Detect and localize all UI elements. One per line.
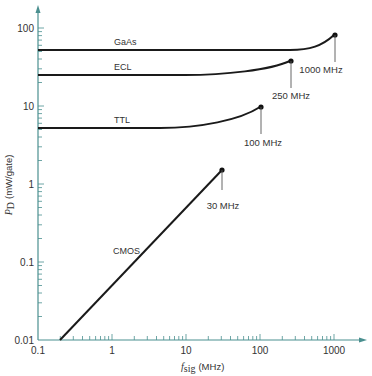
series-label-cmos: CMOS [113, 246, 140, 256]
x-tick-label: 100 [252, 345, 269, 356]
series-label-gaas: GaAs [114, 37, 137, 47]
x-tick-label: 1000 [323, 345, 346, 356]
series-gaas-line [38, 35, 334, 50]
chart-canvas: 0.01 0.1 1 10 100 0.1 1 10 100 1000 fsig… [0, 0, 372, 376]
x-tick-label: 1 [109, 345, 115, 356]
y-ticks [38, 28, 44, 317]
y-tick-labels: 0.01 0.1 1 10 100 [15, 23, 35, 346]
x-axis-title: fsig(MHz) [181, 361, 224, 374]
x-axis-arrow-icon [359, 338, 367, 343]
series-label-ttl: TTL [114, 115, 130, 125]
series-ecl-line [38, 61, 290, 75]
annotation-ecl: 250 MHz [272, 90, 310, 101]
series-cmos-line [60, 170, 222, 340]
endpoint-annotations: 1000 MHz 250 MHz 100 MHz 30 MHz [207, 64, 343, 211]
annotation-gaas: 1000 MHz [299, 64, 343, 75]
x-ticks [60, 334, 334, 340]
y-tick-label: 1 [28, 179, 34, 190]
annotation-ttl: 100 MHz [244, 137, 282, 148]
annotation-cmos: 30 MHz [207, 200, 240, 211]
x-tick-label: 0.1 [31, 345, 45, 356]
y-axis-arrow-icon [36, 5, 41, 13]
y-axis-title: PD(mW/gate) [3, 155, 16, 217]
y-tick-label: 10 [23, 101, 35, 112]
series-label-ecl: ECL [114, 62, 132, 72]
x-tick-labels: 0.1 1 10 100 1000 [31, 345, 346, 356]
y-tick-label: 0.1 [20, 257, 34, 268]
axes [36, 5, 368, 343]
series-ttl-line [38, 107, 260, 128]
series-labels: GaAs ECL TTL CMOS [113, 37, 140, 256]
endpoint-markers [219, 32, 337, 190]
series-curves [38, 35, 334, 340]
y-tick-label: 100 [17, 23, 34, 34]
x-tick-label: 10 [180, 345, 192, 356]
